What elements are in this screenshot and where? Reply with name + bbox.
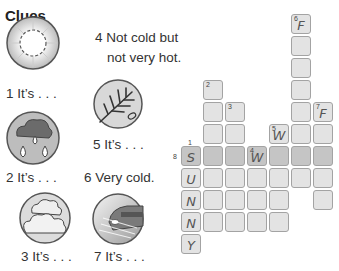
cell-letter: F xyxy=(292,18,310,33)
grid-cell[interactable] xyxy=(291,80,311,100)
grid-cell[interactable] xyxy=(269,146,289,166)
grid-cell[interactable]: U xyxy=(181,168,201,188)
grid-cell[interactable] xyxy=(203,146,223,166)
grid-cell[interactable] xyxy=(291,102,311,122)
grid-cell[interactable]: 7F xyxy=(313,102,333,122)
grid-cell[interactable]: N xyxy=(181,212,201,232)
grid-cell[interactable] xyxy=(291,124,311,144)
cell-number: 2 xyxy=(206,81,210,89)
clue-number-1: 1 xyxy=(188,139,192,146)
grid-cell[interactable] xyxy=(203,190,223,210)
cell-letter: W xyxy=(248,150,266,165)
cell-letter: S xyxy=(182,150,200,165)
grid-cell[interactable]: N xyxy=(181,190,201,210)
grid-cell[interactable] xyxy=(291,58,311,78)
grid-cell[interactable] xyxy=(247,190,267,210)
grid-cell[interactable] xyxy=(247,168,267,188)
grid-cell[interactable] xyxy=(203,212,223,232)
cell-letter: U xyxy=(182,172,200,187)
grid-cell[interactable] xyxy=(203,124,223,144)
grid-cell[interactable] xyxy=(291,168,311,188)
grid-cell[interactable]: Y xyxy=(181,234,201,254)
grid-cell[interactable]: 2 xyxy=(203,80,223,100)
crossword-grid: 1 8 6F237F5WS4WUNNY xyxy=(0,0,339,271)
grid-cell[interactable]: 5W xyxy=(269,124,289,144)
grid-cell[interactable] xyxy=(313,124,333,144)
grid-cell[interactable] xyxy=(291,36,311,56)
grid-cell[interactable] xyxy=(225,212,245,232)
grid-cell[interactable] xyxy=(225,190,245,210)
cell-number: 3 xyxy=(228,103,232,111)
clue-number-8: 8 xyxy=(173,153,177,160)
grid-cell[interactable] xyxy=(291,146,311,166)
grid-cell[interactable] xyxy=(313,168,333,188)
grid-cell[interactable] xyxy=(269,190,289,210)
cell-letter: N xyxy=(182,216,200,231)
grid-cell[interactable] xyxy=(313,146,333,166)
grid-cell[interactable]: 6F xyxy=(291,14,311,34)
grid-cell[interactable] xyxy=(225,124,245,144)
grid-cell[interactable] xyxy=(203,102,223,122)
cell-letter: W xyxy=(270,128,288,143)
grid-cell[interactable] xyxy=(313,190,333,210)
grid-cell[interactable]: 3 xyxy=(225,102,245,122)
grid-cell[interactable] xyxy=(269,212,289,232)
grid-cell[interactable]: S xyxy=(181,146,201,166)
cell-letter: N xyxy=(182,194,200,209)
grid-cell[interactable] xyxy=(203,168,223,188)
cell-letter: Y xyxy=(182,238,200,253)
cell-letter: F xyxy=(314,106,332,121)
grid-cell[interactable] xyxy=(269,168,289,188)
grid-cell[interactable] xyxy=(247,212,267,232)
grid-cell[interactable]: 4W xyxy=(247,146,267,166)
grid-cell[interactable] xyxy=(225,146,245,166)
grid-cell[interactable] xyxy=(225,168,245,188)
